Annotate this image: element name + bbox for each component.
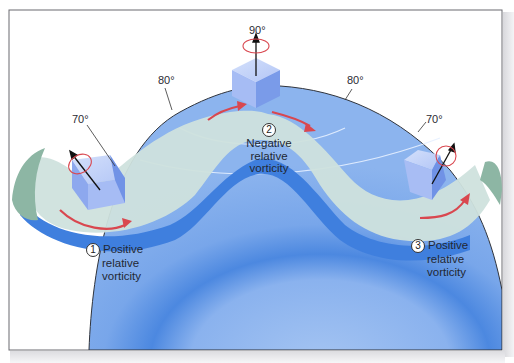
parcel-2-line3: vorticity — [250, 162, 289, 174]
parcel-1-label: 1Positive relative vorticity — [86, 243, 143, 282]
latitude-label-70-right: 70° — [426, 113, 443, 125]
parcel-1-line1: Positive — [103, 243, 143, 255]
parcel-2-line1: Negative — [246, 137, 291, 149]
parcel-1-number: 1 — [86, 243, 100, 257]
parcel-3-label: 3Positive relative vorticity — [411, 239, 468, 278]
parcel-3-line3: vorticity — [427, 266, 466, 278]
latitude-label-80-left: 80° — [158, 74, 175, 86]
vorticity-diagram — [0, 0, 514, 363]
parcel-2-number: 2 — [262, 123, 276, 137]
latitude-label-80-right: 80° — [347, 74, 364, 86]
parcel-3-line2: relative — [427, 253, 464, 265]
parcel-3-number: 3 — [411, 239, 425, 253]
latitude-label-70-left: 70° — [72, 113, 89, 125]
parcel-1-line2: relative — [102, 257, 139, 269]
parcel-3-line1: Positive — [428, 239, 468, 251]
parcel-2-label: 2 Negative relative vorticity — [238, 123, 300, 175]
latitude-label-90: 90° — [249, 24, 266, 36]
parcel-1-line3: vorticity — [102, 270, 141, 282]
parcel-2-line2: relative — [250, 150, 287, 162]
